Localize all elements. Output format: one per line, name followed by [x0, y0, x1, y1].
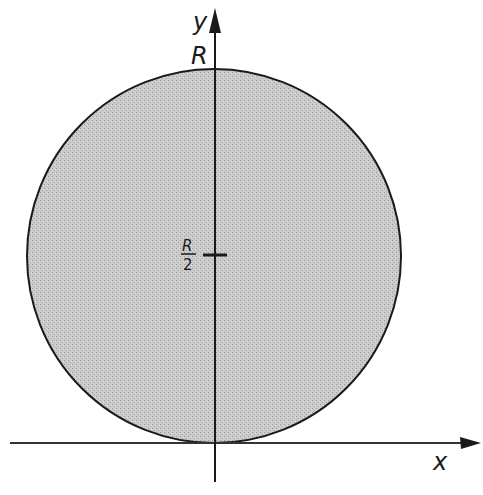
radius-label: R: [191, 42, 208, 70]
y-axis-arrow-icon: [209, 8, 221, 33]
half-radius-denominator: 2: [183, 256, 193, 274]
x-axis-label: x: [432, 448, 448, 476]
x-axis-arrow-icon: [460, 437, 481, 449]
half-radius-numerator: R: [182, 237, 192, 255]
circle-diagram: y R x R 2: [0, 0, 483, 495]
y-axis-label: y: [192, 8, 208, 36]
